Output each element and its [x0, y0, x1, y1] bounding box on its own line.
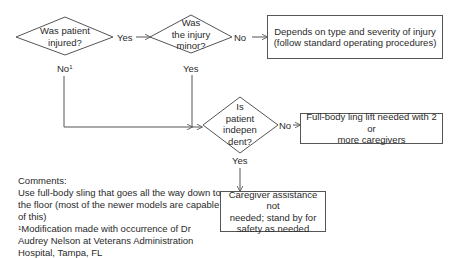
outcome-box-standard-procedures: Depends on type and severity of injury (…	[267, 15, 443, 59]
decision-text-minor: Was the injury minor?	[166, 17, 216, 52]
comments-block: Comments: Use full-body sling that goes …	[18, 175, 228, 258]
footnote-line: Hospital, Tampa, FL	[18, 247, 228, 258]
comment-line: of this)	[18, 211, 228, 223]
edge-d1-no-d3	[64, 76, 192, 127]
outcome-box-no-assistance: Caregiver assistance not needed; stand b…	[220, 191, 326, 232]
comment-line: the floor (most of the newer models are …	[18, 199, 228, 211]
edge-label-d2-yes: Yes	[183, 63, 199, 74]
edge-label-d3-no: No	[279, 120, 291, 131]
edge-label-d3-yes: Yes	[232, 155, 248, 166]
decision-text-independent: Is patient indepen dent?	[218, 101, 262, 147]
footnote-line: Audrey Nelson at Veterans Administration	[18, 235, 228, 247]
outcome-box-full-body-lift: Full-body ling lift needed with 2 or mor…	[300, 113, 443, 144]
comments-heading: Comments:	[18, 175, 228, 187]
edge-label-d1-no: No1	[57, 63, 73, 74]
edge-label-d1-yes: Yes	[117, 32, 133, 43]
decision-text-injured: Was patient injured?	[37, 25, 93, 48]
footnote-mark: 1	[18, 225, 21, 231]
comment-line: Use full-body sling that goes all the wa…	[18, 187, 228, 199]
edge-label-d2-no: No	[234, 32, 246, 43]
footnote-mark: 1	[69, 64, 72, 70]
footnote-line: 1Modification made with occurrence of Dr	[18, 223, 228, 235]
